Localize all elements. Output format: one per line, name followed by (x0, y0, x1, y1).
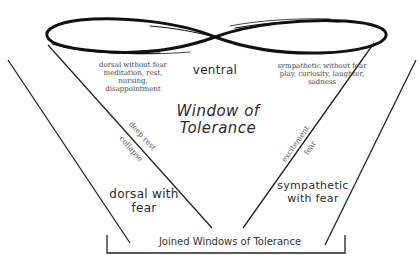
title-line2: Tolerance (168, 120, 268, 137)
dorsal-without-fear-line3: nursing, (88, 77, 178, 85)
sympathetic-with-fear-line1: sympathetic (273, 180, 353, 193)
dorsal-without-fear-block: dorsal without fear meditation, rest, nu… (88, 61, 178, 93)
dorsal-without-fear-line2: meditation, rest, (88, 69, 178, 77)
dorsal-with-fear-label: dorsal with fear (104, 188, 184, 216)
sympathetic-without-fear-heading: sympathetic without fear (272, 62, 372, 70)
window-of-tolerance-title: Window of Tolerance (168, 103, 268, 138)
joined-windows-label: Joined Windows of Tolerance (140, 236, 320, 248)
window-of-tolerance-diagram: dorsal without fear meditation, rest, nu… (0, 0, 420, 264)
infinity-loop-icon (47, 19, 386, 54)
title-line1: Window of (168, 103, 268, 120)
sympathetic-without-fear-line2: play, curiosity, laughter, (272, 70, 372, 78)
ventral-label: ventral (190, 64, 240, 78)
sympathetic-without-fear-line3: sadness (272, 78, 372, 86)
dorsal-without-fear-heading: dorsal without fear (88, 61, 178, 69)
sympathetic-with-fear-label: sympathetic with fear (273, 180, 353, 205)
sympathetic-without-fear-block: sympathetic without fear play, curiosity… (272, 62, 372, 86)
right-outer-boundary (325, 60, 416, 245)
dorsal-without-fear-line4: disappointment (88, 85, 178, 93)
dorsal-with-fear-line2: fear (104, 202, 184, 216)
dorsal-with-fear-line1: dorsal with (104, 188, 184, 202)
sympathetic-with-fear-line2: with fear (273, 193, 353, 206)
